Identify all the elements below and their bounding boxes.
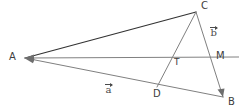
diagram-canvas <box>0 0 239 109</box>
vector-letter-b: b <box>210 28 217 38</box>
point-label-c: C <box>201 1 208 11</box>
segment-a-to-b <box>25 58 223 97</box>
vector-label-b: b <box>210 25 217 38</box>
vector-label-a: a <box>105 82 111 95</box>
point-label-d: D <box>153 89 161 99</box>
segment-c-to-d <box>157 12 196 87</box>
arrowhead-at-a-vector-a <box>25 59 35 64</box>
point-label-a: A <box>9 52 16 62</box>
segment-a-to-c <box>25 12 196 58</box>
geometry-figure: A C B D M T a b <box>0 0 239 109</box>
point-label-m: M <box>216 51 225 61</box>
vector-letter-a: a <box>105 85 111 95</box>
point-label-t: T <box>174 58 180 67</box>
segment-m-to-a <box>25 57 239 58</box>
point-label-b: B <box>228 97 235 107</box>
vector-arrow-bar-a <box>105 82 111 86</box>
vector-arrow-bar-b <box>210 25 217 29</box>
